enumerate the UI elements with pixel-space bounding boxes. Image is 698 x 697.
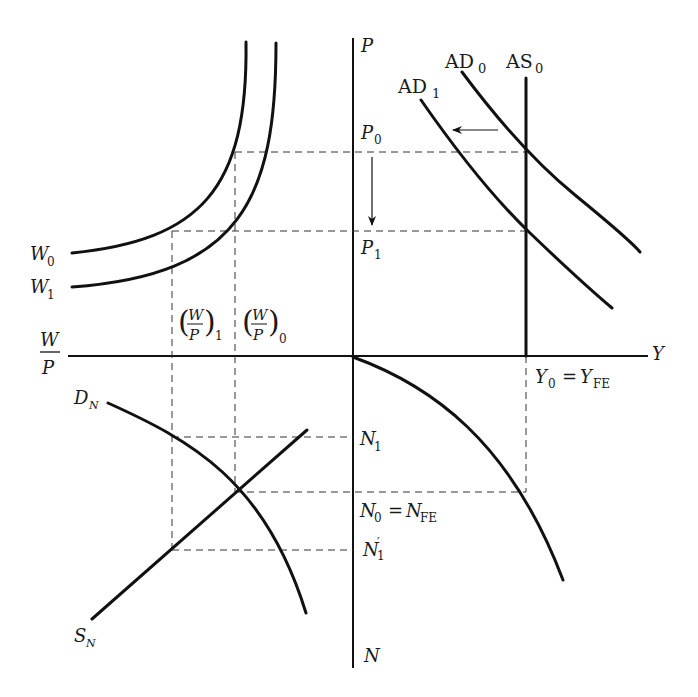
label-as0: AS 0 bbox=[505, 50, 543, 76]
svg-text:0: 0 bbox=[478, 61, 486, 76]
svg-text:N: N bbox=[88, 399, 99, 412]
axis-label-p: P bbox=[360, 35, 374, 56]
label-n1-prime: N ′ 1 bbox=[362, 536, 385, 563]
label-sn: S N bbox=[74, 625, 96, 650]
svg-text:N: N bbox=[85, 637, 96, 650]
svg-text:S: S bbox=[74, 625, 86, 646]
label-y0-equals-yfe: Y 0 = Y FE bbox=[535, 366, 610, 391]
guide-lines bbox=[172, 152, 526, 550]
svg-text:P: P bbox=[188, 326, 200, 344]
svg-text:Y: Y bbox=[580, 366, 594, 387]
svg-text:W: W bbox=[252, 306, 269, 324]
dn-curve bbox=[108, 403, 306, 613]
svg-text:Y: Y bbox=[535, 366, 549, 387]
svg-text:=: = bbox=[562, 366, 577, 387]
svg-text:0: 0 bbox=[47, 255, 55, 269]
svg-text:0: 0 bbox=[535, 61, 543, 76]
label-n0-equals-nfe: N 0 = N FE bbox=[359, 500, 437, 525]
svg-text:AD: AD bbox=[397, 75, 427, 97]
axis-label-n: N bbox=[363, 645, 381, 666]
ad1-curve bbox=[421, 100, 612, 308]
label-real-wage-0: ( W P ) 0 bbox=[242, 304, 287, 346]
svg-text:1: 1 bbox=[47, 288, 55, 302]
four-quadrant-diagram: P N Y W P AD 0 AS 0 AD 1 P 0 P 1 W 0 W 1… bbox=[0, 0, 698, 697]
svg-text:FE: FE bbox=[593, 377, 610, 391]
axis-label-w: W bbox=[40, 329, 60, 350]
label-dn: D N bbox=[73, 387, 99, 412]
sn-curve bbox=[92, 430, 307, 619]
label-real-wage-1: ( W P ) 1 bbox=[178, 304, 223, 344]
svg-text:0: 0 bbox=[548, 377, 556, 391]
ad0-curve bbox=[462, 72, 640, 252]
svg-text:1: 1 bbox=[377, 549, 385, 563]
svg-text:1: 1 bbox=[432, 86, 440, 101]
axis-label-p-den: P bbox=[41, 357, 55, 378]
label-w1: W 1 bbox=[30, 276, 55, 302]
axis-label-y: Y bbox=[652, 343, 666, 364]
w0-curve bbox=[72, 42, 246, 253]
svg-text:FE: FE bbox=[420, 511, 437, 525]
svg-text:1: 1 bbox=[374, 440, 382, 454]
svg-text:P: P bbox=[252, 326, 264, 344]
svg-text:0: 0 bbox=[279, 332, 287, 346]
svg-text:AS: AS bbox=[505, 50, 533, 72]
label-p0: P 0 bbox=[360, 122, 382, 147]
label-ad0: AD 0 bbox=[444, 50, 486, 76]
svg-text:W: W bbox=[188, 306, 205, 324]
production-function-curve bbox=[353, 357, 563, 580]
svg-text:1: 1 bbox=[215, 329, 223, 343]
svg-text:′: ′ bbox=[377, 536, 380, 550]
label-n1: N 1 bbox=[359, 428, 382, 454]
svg-text:P: P bbox=[360, 122, 374, 143]
svg-text:): ) bbox=[268, 304, 280, 339]
svg-text:0: 0 bbox=[374, 511, 382, 525]
label-p1: P 1 bbox=[360, 237, 382, 262]
svg-text:D: D bbox=[73, 387, 89, 408]
svg-text:): ) bbox=[204, 304, 216, 339]
svg-text:1: 1 bbox=[374, 248, 382, 262]
label-w0: W 0 bbox=[30, 243, 55, 269]
svg-text:P: P bbox=[360, 237, 374, 258]
svg-text:AD: AD bbox=[444, 50, 474, 72]
svg-text:=: = bbox=[388, 500, 403, 521]
label-ad1: AD 1 bbox=[397, 75, 440, 101]
svg-text:0: 0 bbox=[374, 133, 382, 147]
